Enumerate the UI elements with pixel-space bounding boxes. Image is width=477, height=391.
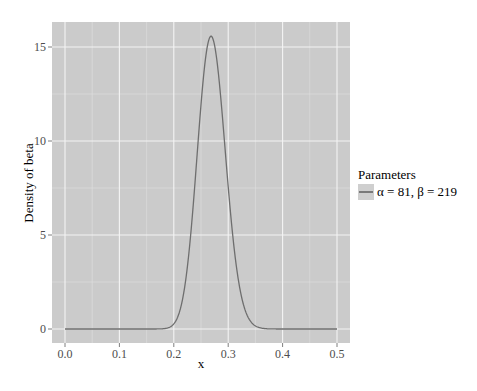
legend: Parameters α = 81, β = 219 [358, 167, 457, 200]
y-axis-title: Density of beta [21, 143, 36, 223]
x-tick-label: 0.0 [58, 347, 73, 361]
legend-title: Parameters [358, 167, 457, 183]
y-axis-ticks: 051015 [34, 40, 52, 336]
x-tick-label: 0.3 [221, 347, 236, 361]
legend-item-label: α = 81, β = 219 [377, 184, 457, 200]
y-tick-label: 15 [34, 40, 46, 54]
x-tick-label: 0.4 [275, 347, 290, 361]
y-tick-label: 0 [40, 322, 46, 336]
x-axis-title: x [198, 356, 205, 371]
x-tick-label: 0.5 [330, 347, 345, 361]
x-tick-label: 0.2 [166, 347, 181, 361]
x-tick-label: 0.1 [112, 347, 127, 361]
legend-item: α = 81, β = 219 [358, 184, 457, 200]
legend-line-key-icon [358, 184, 374, 200]
y-tick-label: 5 [40, 228, 46, 242]
